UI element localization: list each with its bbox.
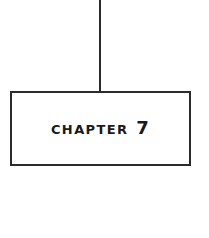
connector-line-icon <box>99 0 101 92</box>
chapter-node-box[interactable]: Chapter 7 <box>10 91 191 166</box>
diagram-canvas: Chapter 7 <box>0 0 209 238</box>
chapter-node-label: Chapter 7 <box>51 119 150 137</box>
